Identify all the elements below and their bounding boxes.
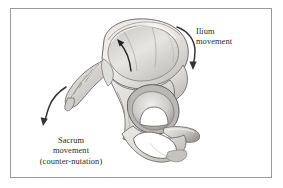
sacrum-coccyx xyxy=(65,59,114,111)
sacrum-movement-arrowhead xyxy=(41,117,48,126)
sacrum-label-line-1: Sacrum xyxy=(14,136,128,146)
sacrum-movement-label: Sacrum movement (counter-nutation) xyxy=(14,136,128,167)
ilium-label-line-2: movement xyxy=(196,37,232,47)
sacrum-label-line-3: (counter-nutation) xyxy=(14,157,128,167)
figure-root: Ilium movement Sacrum movement (counter-… xyxy=(0,0,283,188)
ilium-movement-label: Ilium movement xyxy=(196,27,232,48)
ilium-label-line-1: Ilium xyxy=(196,27,232,37)
ilium-movement-arrowhead xyxy=(189,62,196,70)
sacrum-movement-arrow xyxy=(45,87,66,121)
ischial-tuberosity xyxy=(166,150,187,162)
sacrum-label-line-2: movement xyxy=(14,146,128,156)
